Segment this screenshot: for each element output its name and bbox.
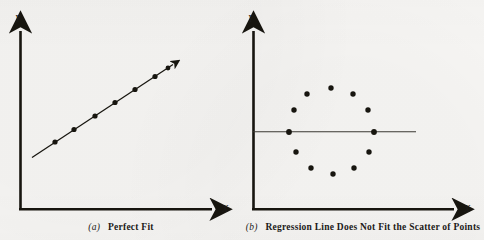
y-axis-label: Y (248, 13, 255, 24)
data-point (365, 107, 370, 112)
data-point (112, 100, 117, 105)
caption-perfect-fit: (a) Perfect Fit (0, 222, 242, 232)
x-axis-label: X (463, 203, 471, 214)
caption-label: (a) (88, 222, 100, 232)
data-point (286, 129, 292, 135)
data-point (152, 74, 157, 79)
data-point (350, 91, 355, 96)
panel-no-fit: Y X (b) Regression Line Does Not Fit the… (242, 0, 484, 240)
data-point (132, 87, 137, 92)
data-point (291, 107, 296, 112)
data-point (92, 113, 97, 118)
data-point (366, 149, 371, 154)
plot-area-no-fit: Y X (242, 0, 484, 222)
data-point-group (286, 85, 377, 176)
caption-label: (b) (246, 222, 258, 232)
data-point (371, 129, 377, 135)
figure-root: Y X (a) Perfect Fit (0, 0, 484, 240)
plot-area-perfect-fit: Y X (0, 0, 242, 222)
x-axis-label: X (221, 203, 229, 214)
y-axis-label: Y (15, 13, 22, 24)
data-point (308, 165, 313, 170)
data-point (330, 171, 335, 176)
caption-no-fit: (b) Regression Line Does Not Fit the Sca… (242, 222, 484, 232)
data-point (304, 91, 309, 96)
caption-text: Regression Line Does Not Fit the Scatter… (265, 222, 480, 232)
data-point (351, 165, 356, 170)
data-point (52, 139, 57, 144)
data-point (293, 149, 298, 154)
caption-text: Perfect Fit (108, 222, 154, 232)
panel-perfect-fit: Y X (a) Perfect Fit (0, 0, 242, 240)
data-point (328, 85, 333, 90)
data-point (166, 66, 171, 71)
data-point (71, 127, 76, 132)
